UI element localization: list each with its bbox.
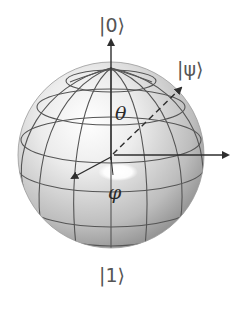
- ket-one-label: |1⟩: [99, 264, 125, 287]
- ket-psi-label: |ψ⟩: [177, 58, 203, 81]
- sphere-highlight: [98, 163, 138, 181]
- ket-zero-label: |0⟩: [99, 14, 125, 37]
- phi-label: φ: [108, 181, 122, 203]
- bloch-sphere-diagram: |0⟩ |ψ⟩ |1⟩ θ φ: [0, 0, 242, 310]
- theta-label: θ: [115, 102, 127, 124]
